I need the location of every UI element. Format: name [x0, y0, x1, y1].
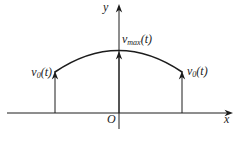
- max-velocity-args: (t): [141, 32, 152, 46]
- max-velocity-subscript: max: [127, 38, 140, 47]
- y-axis-label: y: [103, 0, 108, 14]
- max-velocity-label: vmax(t): [122, 32, 152, 50]
- x-axis-label: x: [224, 112, 229, 126]
- left-velocity-args: (t): [41, 65, 52, 79]
- right-velocity-args: (t): [196, 64, 207, 78]
- left-velocity-label: v0(t): [18, 65, 52, 83]
- origin-label: O: [107, 112, 116, 126]
- kinematics-velocity-diagram: y x O v0(t) vmax(t) v0(t): [0, 0, 241, 141]
- right-velocity-label: v0(t): [187, 64, 208, 82]
